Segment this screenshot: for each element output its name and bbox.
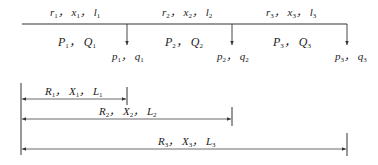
load-3-label: p3， q3 <box>335 51 367 64</box>
cumulative-1-label: R1， X1， L1 <box>45 86 103 99</box>
load-1-label: p1， q1 <box>112 51 144 64</box>
flow-1-label: P1， Q1 <box>58 36 96 50</box>
cumulative-2-label: R2， X2， L2 <box>99 106 157 119</box>
cumulative-3-label: R3， X3， L3 <box>158 136 216 149</box>
segment-3-params: r3， x3， l3 <box>266 7 316 20</box>
segment-1-params: r1， x1， l1 <box>50 7 100 20</box>
flow-3-label: P3， Q3 <box>273 36 311 50</box>
segment-2-params: r2， x2， l2 <box>162 7 212 20</box>
flow-2-label: P2， Q2 <box>165 36 203 50</box>
load-2-label: p2， q2 <box>217 51 249 64</box>
